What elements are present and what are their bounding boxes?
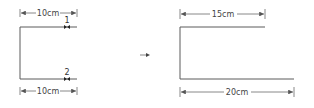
bowtie-icon: [64, 25, 70, 29]
left-figure: 10cm 1 2 10cm: [20, 9, 77, 96]
right-bottom-dimension-label: 20cm: [226, 88, 249, 97]
marker-1-label: 1: [64, 16, 69, 25]
left-top-dimension-label: 10cm: [37, 9, 60, 18]
right-top-dimension-label: 15cm: [212, 10, 235, 19]
right-figure: 15cm 20cm: [180, 9, 294, 97]
arrow-right-icon: [146, 53, 150, 57]
right-bottom-dimension: 20cm: [180, 87, 294, 97]
left-bottom-dimension-label: 10cm: [37, 87, 60, 96]
right-top-dimension: 15cm: [180, 9, 265, 19]
bowtie-icon: [64, 77, 70, 81]
right-shape: [180, 27, 294, 79]
left-bottom-dimension: 10cm: [20, 87, 77, 96]
marker-2-label: 2: [64, 68, 69, 77]
transition-arrow: [140, 53, 150, 57]
diagram-canvas: 10cm 1 2 10cm: [0, 0, 314, 108]
